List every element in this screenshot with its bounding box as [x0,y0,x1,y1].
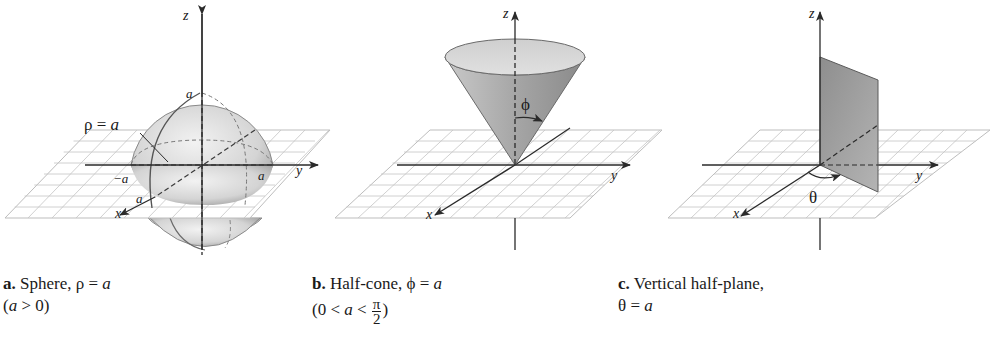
y-axis-label-a: y [294,163,303,178]
rho-label: ρ = a [84,115,119,134]
panel-a-sphere: z y x a −a a a ρ = a [5,8,330,255]
caption-a: a. Sphere, ρ = a (a > 0) [3,273,111,317]
tick-label-top-a: a [186,86,193,101]
x-axis-label-c: x [732,206,740,221]
y-axis-label-c: y [914,168,923,183]
tick-label-pos-x: a [136,191,143,206]
theta-angle-label: θ [809,188,817,207]
pi-over-two: π2 [372,297,382,326]
z-axis-label-a: z [182,8,189,23]
x-axis-label-a: x [114,206,122,221]
panel-b-half-cone: ϕ z y x [335,6,662,250]
caption-b: b. Half-cone, ϕ = a (0 < a < π2) [312,273,442,326]
z-axis-label-b: z [502,6,509,21]
caption-c: c. Vertical half-plane, θ = a [618,273,764,317]
z-axis-label-c: z [808,6,815,21]
figure-canvas: z y x a −a a a ρ = a [0,0,999,337]
panel-c-half-plane: θ z y x [668,6,990,250]
x-axis-label-b: x [425,207,433,222]
phi-angle-label: ϕ [521,95,530,114]
y-axis-label-b: y [609,168,618,183]
tick-label-pos-y: a [258,168,265,183]
tick-label-neg-y: −a [113,171,129,186]
